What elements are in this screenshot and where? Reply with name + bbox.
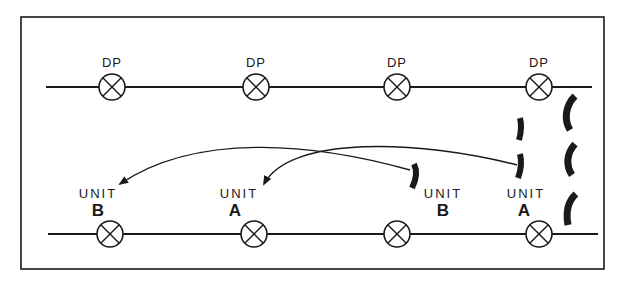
dp-label: DP bbox=[524, 56, 554, 69]
unit-label-word: UNIT bbox=[501, 187, 551, 200]
unit-label-letter: B bbox=[83, 202, 113, 219]
dp-symbol-icon bbox=[526, 74, 552, 100]
dp-label: DP bbox=[241, 56, 271, 69]
diagram-canvas bbox=[0, 0, 630, 290]
unit-a-position-mark bbox=[519, 118, 521, 140]
dp-symbol-icon bbox=[384, 74, 410, 100]
unit-label-word: UNIT bbox=[214, 187, 264, 200]
dp-label: DP bbox=[382, 56, 412, 69]
dp-label: DP bbox=[97, 56, 127, 69]
unit-b-position-mark bbox=[412, 164, 416, 188]
unit-symbol-icon bbox=[241, 221, 267, 247]
unit-symbol-icon bbox=[97, 221, 123, 247]
front-line-arc bbox=[566, 96, 575, 130]
unit-symbol-icon bbox=[384, 221, 410, 247]
dp-symbol-icon bbox=[99, 74, 125, 100]
unit-label-letter: A bbox=[509, 202, 539, 219]
front-line-arc bbox=[567, 194, 576, 225]
unit-label-word: UNIT bbox=[418, 187, 468, 200]
front-line-arc bbox=[568, 144, 575, 175]
unit-label-letter: A bbox=[220, 202, 250, 219]
dp-symbol-icon bbox=[243, 74, 269, 100]
movement-arrow-unit-b bbox=[120, 147, 410, 184]
unit-symbol-icon bbox=[526, 221, 552, 247]
unit-label-word: UNIT bbox=[73, 187, 123, 200]
unit-label-letter: B bbox=[428, 202, 458, 219]
unit-a-position-mark bbox=[518, 154, 521, 178]
relief-diagram: DP DP DP DP UNIT B UNIT A UNIT B UNIT A bbox=[0, 0, 630, 290]
